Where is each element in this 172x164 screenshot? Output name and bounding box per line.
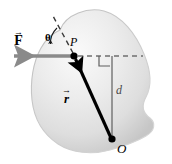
position-vector-label: → r xyxy=(62,88,71,105)
position-vector-letter: r xyxy=(64,92,69,105)
point-o-dot xyxy=(108,135,115,142)
force-vector-label: → F xyxy=(14,30,23,48)
point-p-dot xyxy=(70,52,77,59)
point-p-label: P xyxy=(70,36,77,48)
torque-diagram-figure: → F θ P → r d O xyxy=(0,0,172,164)
figure-canvas xyxy=(0,0,172,164)
angle-label-theta: θ xyxy=(45,32,51,43)
force-vector-letter: F xyxy=(14,34,23,48)
moment-arm-label: d xyxy=(116,84,122,96)
axis-point-label: O xyxy=(117,142,126,155)
